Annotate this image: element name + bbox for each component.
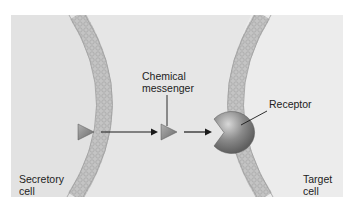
target-cell-label: Target cell (303, 173, 332, 197)
chemical-messenger-2 (161, 124, 177, 140)
diagram-panel: Chemical messenger Receptor Secretory ce… (11, 15, 343, 197)
arrow-2 (184, 129, 212, 136)
messenger-label-line1: Chemical (142, 70, 194, 82)
chemical-messenger-label: Chemical messenger (142, 70, 194, 94)
messenger-label-line2: messenger (142, 82, 194, 94)
secretory-label-line1: Secretory (19, 173, 64, 185)
secretory-label-line2: cell (19, 185, 64, 197)
secretory-cell-label: Secretory cell (19, 173, 64, 197)
target-label-line2: cell (303, 185, 332, 197)
receptor-label: Receptor (269, 98, 312, 110)
target-label-line1: Target (303, 173, 332, 185)
